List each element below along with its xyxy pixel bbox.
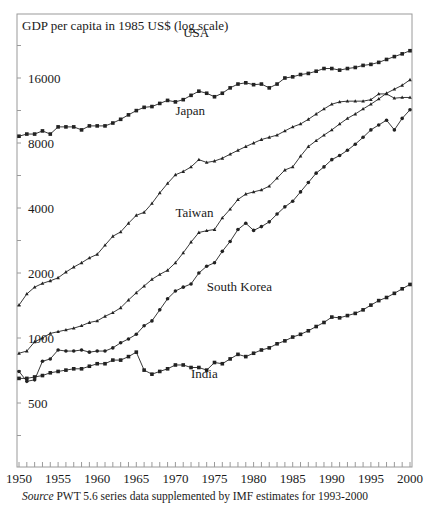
x-tick-label: 1965 — [123, 471, 149, 486]
series-taiwan — [17, 78, 412, 355]
y-tick-label: 500 — [28, 396, 48, 411]
source-caption: Source PWT 5.6 series data supplemented … — [22, 490, 368, 502]
series-label: India — [191, 366, 218, 381]
x-tick-label: 1955 — [45, 471, 71, 486]
gdp-per-capita-chart: GDP per capita in 1985 US$ (log scale) 5… — [0, 0, 430, 490]
series-usa — [17, 49, 412, 138]
x-tick-label: 2000 — [397, 471, 423, 486]
series-lines — [17, 49, 412, 383]
x-tick-label: 1950 — [6, 471, 32, 486]
source-text: PWT 5.6 series data supplemented by IMF … — [54, 490, 368, 502]
source-word: Source — [22, 490, 54, 502]
x-tick-label: 1970 — [162, 471, 188, 486]
y-tick-label: 16000 — [28, 71, 61, 86]
x-tick-label: 1975 — [202, 471, 228, 486]
x-tick-label: 1985 — [280, 471, 306, 486]
x-tick-label: 1995 — [358, 471, 384, 486]
series-label: Taiwan — [175, 205, 214, 220]
y-tick-label: 2000 — [28, 266, 54, 281]
x-tick-label: 1960 — [84, 471, 110, 486]
x-tick-label: 1980 — [241, 471, 267, 486]
y-tick-label: 4000 — [28, 201, 54, 216]
x-tick-label: 1990 — [319, 471, 345, 486]
series-label: South Korea — [207, 279, 273, 294]
series-label: Japan — [175, 103, 205, 118]
y-tick-label: 8000 — [28, 136, 54, 151]
plot-frame — [17, 14, 412, 467]
series-label: USA — [183, 25, 210, 40]
series-japan — [17, 92, 412, 307]
x-axis-ticks: 1950195519601965197019751980198519901995… — [6, 462, 423, 486]
series-labels: USAJapanTaiwanSouth KoreaIndia — [175, 25, 272, 381]
series-south-korea — [17, 108, 412, 383]
